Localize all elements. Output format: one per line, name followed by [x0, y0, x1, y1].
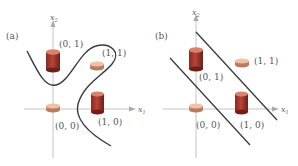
point-0-1-label: (0, 1): [199, 72, 223, 82]
y-axis-label: x2: [192, 8, 200, 18]
point-1-1-flat-disk: [90, 61, 104, 70]
point-1-1-flat-disk: [235, 58, 249, 67]
point-0-0-label: (0, 0): [196, 120, 220, 130]
panel-b-label: (b): [155, 31, 168, 41]
point-0-1-label: (0, 1): [59, 39, 83, 49]
point-0-0-label: (0, 0): [55, 121, 79, 131]
point-1-1-label: (1, 1): [254, 56, 278, 66]
xor-diagram: (a) x2 x1 (0, 1) (1, 1) (0, 0): [0, 0, 298, 166]
point-1-0-tall-cylinder: [235, 91, 248, 114]
panel-b: (b) x2 x1 (0, 1) (1, 1) (0, 0): [155, 8, 289, 158]
point-0-0-flat-disk: [189, 103, 203, 112]
y-axis-label: x2: [50, 13, 58, 23]
x-axis-label: x1: [138, 105, 146, 115]
point-0-1-tall-cylinder: [189, 47, 203, 71]
panel-a-label: (a): [6, 31, 18, 41]
point-1-0-label: (1, 0): [240, 120, 264, 130]
point-0-1-tall-cylinder: [46, 49, 60, 72]
x-axis-arrow-icon: [129, 107, 136, 112]
point-1-0-label: (1, 0): [98, 117, 122, 127]
panel-a: (a) x2 x1 (0, 1) (1, 1) (0, 0): [6, 13, 146, 158]
x-axis-label: x1: [281, 105, 289, 115]
point-0-0-flat-disk: [46, 103, 60, 112]
x-axis-arrow-icon: [272, 107, 279, 112]
point-1-0-tall-cylinder: [91, 91, 104, 114]
